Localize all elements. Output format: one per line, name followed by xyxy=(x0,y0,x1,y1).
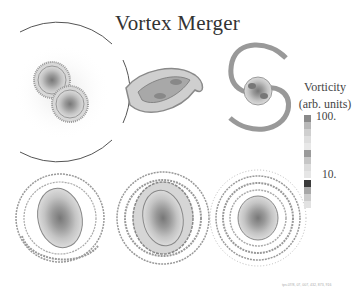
panel-5 xyxy=(117,172,209,264)
vortex-panels xyxy=(0,0,359,301)
panel-3 xyxy=(230,45,289,129)
panel-4 xyxy=(16,174,104,262)
colorbar-tick-100: 100. xyxy=(316,110,336,122)
panel-1 xyxy=(14,22,112,162)
panel-6 xyxy=(210,170,306,266)
vorticity-colorbar xyxy=(304,115,311,208)
colorbar-label-line1: Vorticity xyxy=(292,79,358,96)
colorbar-title: Vorticity (arb. units) xyxy=(292,79,358,113)
panel-2 xyxy=(123,60,203,123)
figure-caption: tps.07/8, 07, 007, 432, 873, 916 xyxy=(282,283,331,287)
colorbar-tick-10: 10. xyxy=(322,168,336,180)
